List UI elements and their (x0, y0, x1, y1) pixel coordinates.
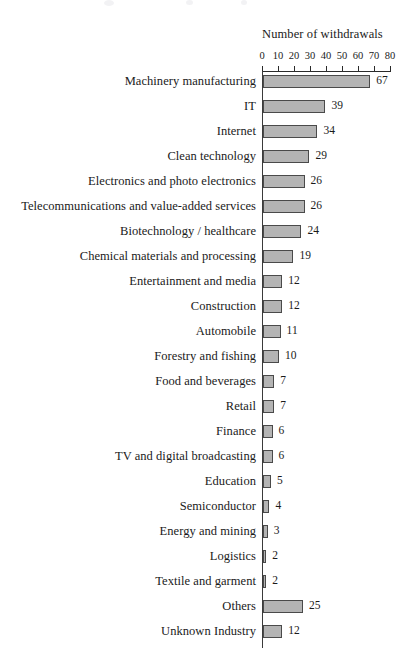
bar-row: Entertainment and media12 (0, 272, 418, 297)
bar-value-label: 26 (311, 173, 323, 188)
bar (263, 525, 268, 538)
bar-fill (263, 100, 325, 113)
bar-row: Clean technology29 (0, 147, 418, 172)
category-label: TV and digital broadcasting (115, 449, 256, 464)
bar-row: Retail7 (0, 397, 418, 422)
bar (263, 400, 274, 413)
bar (263, 475, 271, 488)
category-label: Logistics (210, 549, 256, 564)
bar-row: Logistics2 (0, 547, 418, 572)
bar (263, 575, 266, 588)
bar (263, 300, 282, 313)
bar-fill (263, 425, 273, 438)
category-label: Finance (216, 424, 256, 439)
bar-value-label: 11 (287, 323, 298, 338)
category-label: Machinery manufacturing (125, 74, 256, 89)
bar-row: Food and beverages7 (0, 372, 418, 397)
bar-fill (263, 625, 282, 638)
bar-value-label: 25 (309, 598, 321, 613)
category-label: Construction (191, 299, 256, 314)
bar (263, 250, 293, 263)
bar (263, 275, 282, 288)
bar (263, 325, 281, 338)
bar-fill (263, 600, 303, 613)
bar-value-label: 3 (274, 523, 280, 538)
category-label: Energy and mining (160, 524, 256, 539)
bar-fill (263, 500, 269, 513)
bar-fill (263, 475, 271, 488)
x-tick-label-70: 70 (369, 49, 380, 62)
bar-fill (263, 325, 281, 338)
x-axis-tick-labels: 01020304050607080 (256, 49, 406, 64)
bar-row: Unknown Industry12 (0, 622, 418, 647)
bar-fill (263, 575, 266, 588)
category-label: Education (205, 474, 256, 489)
bar-fill (263, 200, 305, 213)
category-label: Entertainment and media (129, 274, 256, 289)
bar-rows: Machinery manufacturing67IT39Internet34C… (0, 72, 418, 647)
bar (263, 550, 266, 563)
bar (263, 125, 317, 138)
bar-value-label: 10 (285, 348, 297, 363)
bar-row: Machinery manufacturing67 (0, 72, 418, 97)
bar (263, 375, 274, 388)
bar-row: Energy and mining3 (0, 522, 418, 547)
bar-row: Others25 (0, 597, 418, 622)
category-label: Chemical materials and processing (80, 249, 256, 264)
bar-value-label: 6 (279, 423, 285, 438)
bar-row: Semiconductor4 (0, 497, 418, 522)
bar-value-label: 5 (277, 473, 283, 488)
bar-value-label: 2 (272, 573, 278, 588)
bar-fill (263, 400, 274, 413)
bar-fill (263, 175, 305, 188)
bar-fill (263, 150, 309, 163)
category-label: Telecommunications and value-added servi… (21, 199, 256, 214)
bar-row: Education5 (0, 472, 418, 497)
bar-value-label: 67 (376, 73, 388, 88)
bar-fill (263, 375, 274, 388)
category-label: IT (244, 99, 256, 114)
bar-fill (263, 550, 266, 563)
x-tick-label-80: 80 (385, 49, 396, 62)
bar (263, 150, 309, 163)
bar (263, 175, 305, 188)
bar-value-label: 12 (288, 298, 300, 313)
bar-value-label: 39 (331, 98, 343, 113)
x-tick-label-20: 20 (289, 49, 300, 62)
scan-artifact (186, 0, 193, 5)
bar-row: Telecommunications and value-added servi… (0, 197, 418, 222)
bar (263, 500, 269, 513)
bar-value-label: 26 (311, 198, 323, 213)
bar-fill (263, 250, 293, 263)
bar-value-label: 12 (288, 623, 300, 638)
category-label: Textile and garment (155, 574, 256, 589)
bar-row: Chemical materials and processing19 (0, 247, 418, 272)
axis-title: Number of withdrawals (262, 27, 418, 42)
bar-row: Biotechnology / healthcare24 (0, 222, 418, 247)
category-label: Biotechnology / healthcare (120, 224, 256, 239)
bar-value-label: 7 (280, 398, 286, 413)
bar-value-label: 6 (279, 448, 285, 463)
bar-fill (263, 125, 317, 138)
bar-row: Electronics and photo electronics26 (0, 172, 418, 197)
bar-row: IT39 (0, 97, 418, 122)
category-label: Automobile (196, 324, 256, 339)
x-tick-label-40: 40 (321, 49, 332, 62)
x-tick-label-30: 30 (305, 49, 316, 62)
bar (263, 600, 303, 613)
category-label: Forestry and fishing (154, 349, 256, 364)
bar-fill (263, 450, 273, 463)
bar (263, 625, 282, 638)
bar-value-label: 29 (315, 148, 327, 163)
bar-value-label: 34 (323, 123, 335, 138)
x-tick-label-60: 60 (353, 49, 364, 62)
bar-row: Internet34 (0, 122, 418, 147)
bar-fill (263, 75, 370, 88)
category-label: Food and beverages (155, 374, 256, 389)
scan-artifact (241, 0, 247, 5)
bar-value-label: 12 (288, 273, 300, 288)
bar-fill (263, 300, 282, 313)
category-label: Retail (226, 399, 256, 414)
category-label: Clean technology (167, 149, 256, 164)
bar-row: Textile and garment2 (0, 572, 418, 597)
